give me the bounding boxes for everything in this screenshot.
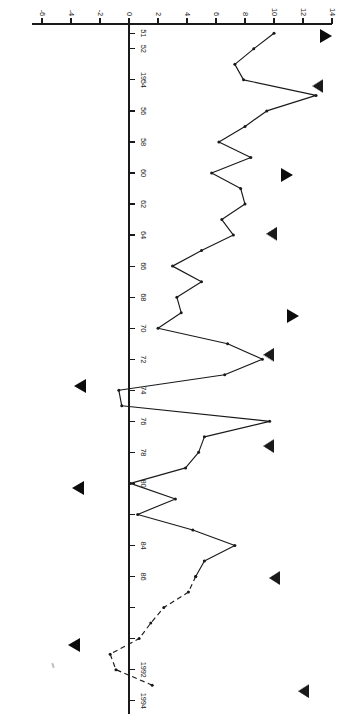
x-axis-tick-label: 56 bbox=[140, 107, 148, 115]
x-axis-tick bbox=[129, 234, 135, 235]
y-axis-tick-label: 12 bbox=[299, 1, 307, 16]
data-point bbox=[217, 140, 220, 143]
data-point bbox=[200, 249, 203, 252]
x-axis-tick-label: 51 bbox=[140, 29, 148, 37]
y-axis-tick-label: 6 bbox=[212, 1, 220, 16]
x-axis-tick bbox=[129, 203, 135, 204]
y-axis-tick bbox=[244, 18, 245, 24]
data-point bbox=[149, 622, 152, 625]
data-point bbox=[210, 172, 213, 175]
y-axis-tick bbox=[273, 18, 274, 24]
data-point bbox=[223, 373, 226, 376]
y-axis-tick-label: 0 bbox=[125, 1, 133, 16]
x-axis-tick-label: 52 bbox=[140, 45, 148, 53]
data-point bbox=[232, 234, 235, 237]
trough-marker bbox=[269, 571, 280, 585]
y-axis-tick bbox=[70, 18, 71, 24]
peak-marker bbox=[320, 29, 332, 43]
trough-marker bbox=[298, 684, 309, 698]
y-axis-tick-label: 10 bbox=[270, 1, 278, 16]
series-line-annual-rate-solid bbox=[119, 33, 316, 576]
x-axis-tick bbox=[129, 700, 135, 701]
series-line-annual-rate-dashed bbox=[110, 577, 196, 686]
data-point bbox=[151, 684, 154, 687]
x-axis-tick bbox=[129, 638, 135, 639]
data-point bbox=[114, 668, 117, 671]
data-point bbox=[187, 591, 190, 594]
peak-marker bbox=[287, 309, 299, 323]
x-axis-tick-label: 70 bbox=[140, 324, 148, 332]
x-axis-tick bbox=[129, 514, 135, 515]
x-axis-tick-label: 86 bbox=[140, 573, 148, 581]
y-axis-tick-label: 14 bbox=[328, 1, 336, 16]
data-point bbox=[220, 218, 223, 221]
y-axis-tick bbox=[186, 18, 187, 24]
y-axis-tick bbox=[331, 18, 332, 24]
data-point bbox=[233, 63, 236, 66]
data-point bbox=[175, 296, 178, 299]
data-point bbox=[249, 156, 252, 159]
data-point bbox=[120, 404, 123, 407]
x-axis-tick-label: 78 bbox=[140, 448, 148, 456]
y-axis-tick-label: -2 bbox=[96, 1, 104, 16]
rotated-figure-stage: 5152195456586062646668707274767880848619… bbox=[0, 0, 342, 728]
x-axis-tick bbox=[129, 669, 135, 670]
x-axis-tick-label: 74 bbox=[140, 386, 148, 394]
data-point bbox=[244, 203, 247, 206]
data-point bbox=[117, 389, 120, 392]
x-axis-tick bbox=[129, 328, 135, 329]
y-axis-tick-label: -6 bbox=[38, 1, 46, 16]
data-point bbox=[138, 637, 141, 640]
data-point bbox=[194, 575, 197, 578]
x-axis-tick bbox=[129, 359, 135, 360]
trough-marker bbox=[266, 227, 277, 241]
x-axis-tick bbox=[129, 421, 135, 422]
series-lines bbox=[0, 0, 342, 728]
peak-marker bbox=[68, 638, 80, 652]
x-axis-tick-label: 62 bbox=[140, 200, 148, 208]
x-axis-tick bbox=[129, 172, 135, 173]
x-axis-tick bbox=[129, 390, 135, 391]
y-axis-tick bbox=[157, 18, 158, 24]
data-point bbox=[233, 544, 236, 547]
data-point bbox=[203, 560, 206, 563]
y-axis-tick-label: 2 bbox=[154, 1, 162, 16]
x-axis-tick bbox=[129, 297, 135, 298]
data-point bbox=[191, 528, 194, 531]
x-axis-tick-label: 64 bbox=[140, 231, 148, 239]
data-point bbox=[109, 653, 112, 656]
x-axis-tick bbox=[129, 48, 135, 49]
data-point bbox=[184, 466, 187, 469]
x-axis-tick-label: 60 bbox=[140, 169, 148, 177]
x-axis-tick-label: 1992 bbox=[140, 662, 148, 678]
data-point bbox=[197, 451, 200, 454]
data-point bbox=[180, 311, 183, 314]
data-point bbox=[136, 513, 139, 516]
data-point bbox=[252, 47, 255, 50]
x-axis-tick-label: 1954 bbox=[140, 72, 148, 88]
trough-marker bbox=[313, 79, 324, 93]
data-point bbox=[171, 265, 174, 268]
x-axis-tick-label: 66 bbox=[140, 262, 148, 270]
peak-marker bbox=[74, 379, 86, 393]
chart-plot-area: 5152195456586062646668707274767880848619… bbox=[0, 0, 342, 728]
x-axis-tick bbox=[129, 266, 135, 267]
y-axis-tick-label: 4 bbox=[183, 1, 191, 16]
value-axis-line bbox=[32, 23, 332, 25]
data-point bbox=[157, 327, 160, 330]
x-axis-tick-label: 76 bbox=[140, 417, 148, 425]
data-point bbox=[162, 606, 165, 609]
peak-marker bbox=[281, 168, 293, 182]
x-axis-tick-label: 84 bbox=[140, 541, 148, 549]
zero-axis-line bbox=[128, 24, 130, 714]
x-axis-tick-label: 68 bbox=[140, 293, 148, 301]
data-point bbox=[174, 497, 177, 500]
x-axis-tick-label: 1994 bbox=[140, 693, 148, 709]
x-axis-tick bbox=[129, 576, 135, 577]
x-axis-tick-label: 80 bbox=[140, 479, 148, 487]
y-axis-tick bbox=[99, 18, 100, 24]
x-axis-tick bbox=[129, 607, 135, 608]
data-point bbox=[200, 280, 203, 283]
x-axis-tick bbox=[129, 452, 135, 453]
data-point bbox=[226, 342, 229, 345]
